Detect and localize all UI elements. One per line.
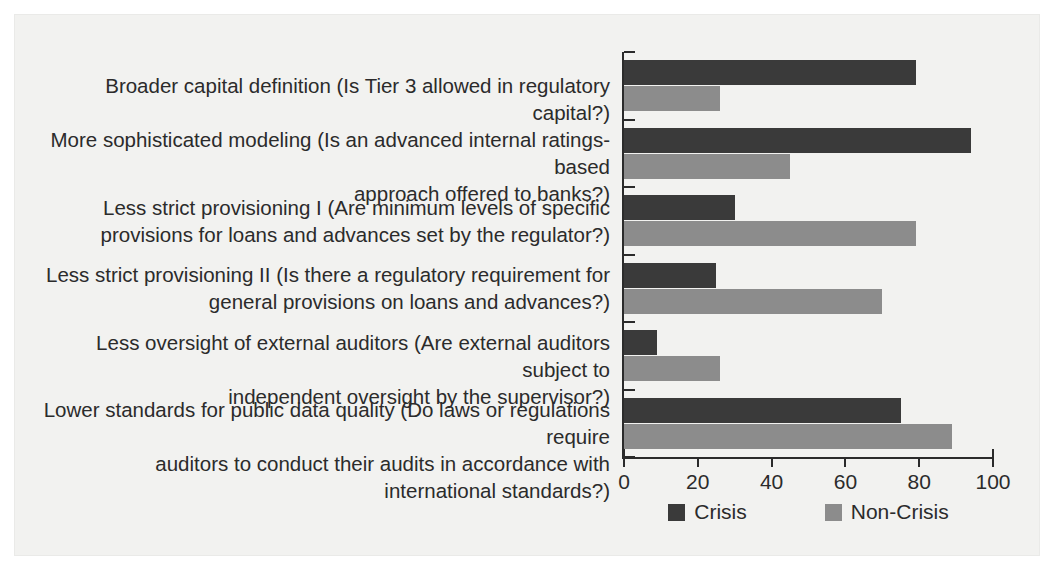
value-axis-tick-label: 100 (975, 470, 1010, 494)
legend-swatch-icon (825, 504, 842, 521)
value-axis-tick-label: 20 (686, 470, 709, 494)
category-axis-tick (624, 389, 635, 391)
category-axis-tick (624, 321, 635, 323)
value-axis-tick (992, 457, 994, 467)
category-label: Broader capital definition (Is Tier 3 al… (40, 72, 610, 126)
chart-figure: Broader capital definition (Is Tier 3 al… (0, 0, 1054, 574)
category-label: Less strict provisioning II (Is there a … (40, 261, 610, 315)
bar-crisis (624, 60, 916, 85)
bar-non-crisis (624, 154, 790, 179)
value-axis-end-cap (992, 449, 994, 458)
bar-crisis (624, 398, 901, 423)
category-label-line: auditors to conduct their audits in acco… (40, 450, 610, 504)
bar-non-crisis (624, 424, 952, 449)
bar-non-crisis (624, 356, 720, 381)
category-label-line: Less strict provisioning I (Are minimum … (40, 194, 610, 221)
legend-label: Crisis (694, 500, 747, 524)
plot-area: 020406080100 (624, 52, 993, 457)
chart-legend: CrisisNon-Crisis (624, 500, 993, 524)
bar-crisis (624, 128, 971, 153)
legend-swatch-icon (668, 504, 685, 521)
bar-non-crisis (624, 221, 916, 246)
value-axis-tick (623, 457, 625, 467)
value-axis-line (622, 457, 993, 459)
value-axis-tick (918, 457, 920, 467)
value-axis-tick-label: 80 (908, 470, 931, 494)
value-axis-tick-label: 0 (618, 470, 630, 494)
bar-non-crisis (624, 86, 720, 111)
category-label-line: Broader capital definition (Is Tier 3 al… (40, 72, 610, 126)
category-label-line: provisions for loans and advances set by… (40, 221, 610, 248)
legend-item[interactable]: Non-Crisis (825, 500, 949, 524)
value-axis-tick-label: 40 (760, 470, 783, 494)
value-axis-tick (771, 457, 773, 467)
bar-crisis (624, 195, 735, 220)
category-axis-tick (624, 254, 635, 256)
category-label-line: general provisions on loans and advances… (40, 288, 610, 315)
category-label-column: Broader capital definition (Is Tier 3 al… (40, 52, 610, 457)
bar-crisis (624, 263, 716, 288)
category-label: Lower standards for public data quality … (40, 396, 610, 504)
category-axis-tick (624, 51, 635, 53)
value-axis-tick (844, 457, 846, 467)
bar-crisis (624, 330, 657, 355)
legend-label: Non-Crisis (851, 500, 949, 524)
category-label-line: Less strict provisioning II (Is there a … (40, 261, 610, 288)
category-label-line: Less oversight of external auditors (Are… (40, 329, 610, 383)
legend-item[interactable]: Crisis (668, 500, 747, 524)
category-axis-tick (624, 186, 635, 188)
value-axis-tick (697, 457, 699, 467)
bar-non-crisis (624, 289, 882, 314)
category-label-line: Lower standards for public data quality … (40, 396, 610, 450)
value-axis-tick-label: 60 (834, 470, 857, 494)
value-axis-end-cap (623, 449, 625, 458)
category-axis-tick (624, 119, 635, 121)
category-label-line: More sophisticated modeling (Is an advan… (40, 126, 610, 180)
category-axis-tick (624, 456, 635, 458)
category-label: Less strict provisioning I (Are minimum … (40, 194, 610, 248)
